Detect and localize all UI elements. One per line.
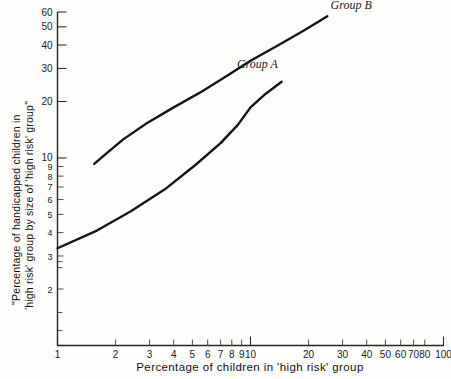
data-series-group (58, 16, 328, 248)
x-tick-label: 60 (395, 349, 407, 360)
x-tick-label: 1 (55, 349, 61, 360)
x-axis-ticks: 1234567891020304050607080100 (55, 337, 451, 360)
x-tick-label: 10 (245, 349, 257, 360)
log-log-line-chart: 23456789102030405060 1234567891020304050… (0, 0, 451, 379)
y-tick-label: 9 (47, 162, 52, 172)
y-tick-label: 50 (41, 21, 53, 32)
x-tick-label: 6 (205, 349, 211, 360)
x-tick-label: 3 (147, 349, 153, 360)
x-tick-label: 40 (361, 349, 373, 360)
x-tick-label: 70 (408, 349, 420, 360)
y-tick-label: 4 (47, 228, 52, 238)
x-tick-label: 80 (419, 349, 431, 360)
y-axis-title-line2: 'high risk' group by size of 'high risk'… (23, 101, 35, 310)
series-label-group-a: Group A (237, 57, 279, 71)
x-tick-label: 30 (337, 349, 349, 360)
x-tick-label: 2 (113, 349, 119, 360)
series-annotations: Group AGroup B (237, 0, 373, 71)
series-label-group-b: Group B (331, 0, 373, 12)
series-curve-group-b (94, 16, 327, 164)
y-tick-label: 20 (41, 96, 53, 107)
y-axis-ticks: 23456789102030405060 (41, 7, 66, 346)
x-tick-label: 8 (229, 349, 235, 360)
y-axis-title-line1: "Percentage of handicapped children in (10, 114, 22, 305)
y-tick-label: 3 (47, 252, 52, 262)
y-tick-label: 7 (47, 182, 52, 192)
y-tick-label: 10 (41, 152, 53, 163)
y-tick-label: 2 (47, 285, 52, 295)
y-tick-label: 8 (47, 172, 52, 182)
x-tick-label: 50 (380, 349, 392, 360)
y-tick-label: 40 (41, 40, 53, 51)
x-tick-label: 100 (435, 349, 451, 360)
x-axis-title: Percentage of children in 'high risk' gr… (136, 361, 363, 373)
x-tick-label: 20 (303, 349, 315, 360)
y-tick-label: 60 (41, 7, 53, 18)
y-tick-label: 5 (47, 210, 52, 220)
y-tick-label: 30 (41, 63, 53, 74)
x-tick-label: 4 (171, 349, 177, 360)
x-tick-label: 5 (190, 349, 196, 360)
x-tick-label: 7 (218, 349, 224, 360)
y-tick-label: 6 (47, 195, 52, 205)
series-curve-group-a (58, 82, 282, 249)
chart-page: 23456789102030405060 1234567891020304050… (0, 0, 451, 379)
